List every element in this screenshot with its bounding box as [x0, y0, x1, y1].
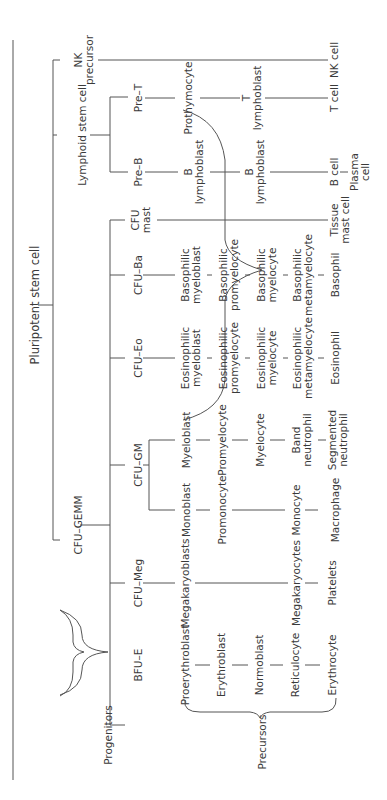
precursors-brace-svg — [0, 0, 387, 800]
diagram-stage: Pluripotent stem cell NK precursor Lymph… — [0, 0, 387, 800]
hematopoiesis-diagram: Pluripotent stem cell NK precursor Lymph… — [0, 0, 387, 800]
